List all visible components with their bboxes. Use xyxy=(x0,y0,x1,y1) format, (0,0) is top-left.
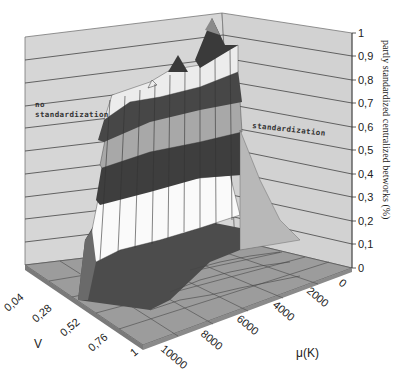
z-tick-0.8: 0,8 xyxy=(358,74,373,86)
z-tick-0.3: 0,3 xyxy=(358,191,373,203)
v-tick-0.28: 0,28 xyxy=(30,302,54,325)
mu-axis-label: μ(K) xyxy=(296,346,319,360)
v-tick-1: 1 xyxy=(128,345,140,358)
z-tick-0.7: 0,7 xyxy=(358,97,373,109)
mu-tick-10000: 10000 xyxy=(159,342,190,371)
v-tick-0.76: 0,76 xyxy=(86,331,110,354)
z-tick-0.4: 0,4 xyxy=(358,168,373,180)
mu-tick-0: 0 xyxy=(337,276,349,289)
z-axis: 0 0,1 0,2 0,3 0,4 0,5 0,6 0,7 0,8 0,9 1 xyxy=(352,27,373,274)
z-tick-0.5: 0,5 xyxy=(358,144,373,156)
z-tick-0.2: 0,2 xyxy=(358,215,373,227)
z-tick-0.9: 0,9 xyxy=(358,50,373,62)
mu-tick-4000: 4000 xyxy=(271,298,297,323)
z-tick-1: 1 xyxy=(358,27,364,39)
z-tick-0.6: 0,6 xyxy=(358,121,373,133)
z-tick-0.1: 0,1 xyxy=(358,238,373,250)
mu-tick-6000: 6000 xyxy=(235,312,261,337)
v-tick-0.04: 0,04 xyxy=(2,291,26,314)
annotation-no-standardization: standardization xyxy=(35,110,109,119)
v-axis-label: V xyxy=(34,337,42,351)
surface-chart: no standardization standardization 0 0,1… xyxy=(0,0,400,381)
annotation-no: no xyxy=(35,100,45,109)
mu-tick-8000: 8000 xyxy=(199,327,225,352)
v-tick-0.52: 0,52 xyxy=(58,316,82,339)
z-axis-label: partly standardized centralized betworks… xyxy=(380,40,392,219)
z-tick-0: 0 xyxy=(358,262,364,274)
mu-tick-2000: 2000 xyxy=(305,284,331,309)
